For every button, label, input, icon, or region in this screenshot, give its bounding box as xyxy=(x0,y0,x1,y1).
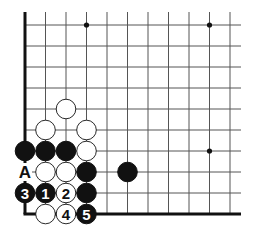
black-stone xyxy=(56,141,76,161)
white-stone xyxy=(56,162,76,182)
black-stone xyxy=(77,162,97,182)
white-stone xyxy=(36,204,56,224)
marker-label-A: A xyxy=(19,163,31,182)
white-stone xyxy=(36,120,56,140)
go-board: A31245 xyxy=(0,0,256,234)
star-point xyxy=(84,22,89,27)
black-stone xyxy=(36,141,56,161)
white-stone xyxy=(77,120,97,140)
star-point xyxy=(207,22,212,27)
white-stone xyxy=(77,141,97,161)
move-number-5: 5 xyxy=(82,206,90,223)
move-number-3: 3 xyxy=(21,185,29,202)
move-number-2: 2 xyxy=(62,185,70,202)
white-stone xyxy=(56,99,76,119)
black-stone xyxy=(118,162,138,182)
white-stone xyxy=(36,162,56,182)
black-stone xyxy=(15,141,35,161)
move-number-4: 4 xyxy=(62,206,71,223)
move-number-1: 1 xyxy=(41,185,49,202)
black-stone xyxy=(77,183,97,203)
star-point xyxy=(207,148,212,153)
